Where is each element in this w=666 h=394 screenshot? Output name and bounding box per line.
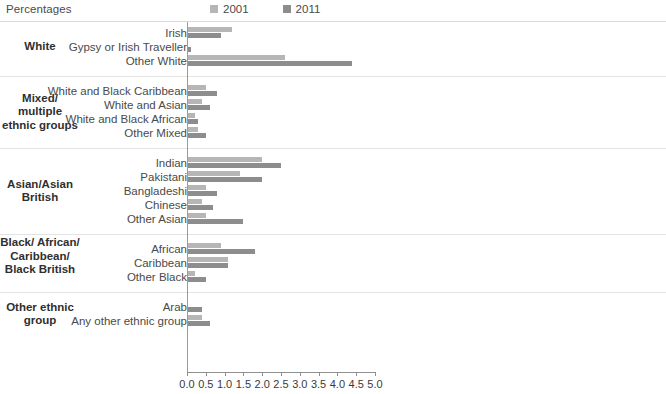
bar-2011 xyxy=(187,105,210,110)
legend-label-2011: 2011 xyxy=(296,3,321,15)
legend-swatch-2011 xyxy=(283,5,291,13)
category-label: Other Asian xyxy=(0,212,187,226)
group-label: Asian/Asian British xyxy=(0,178,80,205)
group-divider xyxy=(0,148,666,149)
chart-row: Bangladeshi xyxy=(0,184,666,198)
bar-2011 xyxy=(187,249,255,254)
bar-pair xyxy=(187,126,666,140)
bar-2001 xyxy=(187,127,198,132)
bar-2001 xyxy=(187,99,202,104)
x-axis-tick xyxy=(262,372,263,376)
x-axis-tick xyxy=(337,372,338,376)
bar-pair xyxy=(187,54,666,68)
chart-row: Indian xyxy=(0,156,666,170)
group-label: White xyxy=(0,40,80,54)
bar-pair xyxy=(187,156,666,170)
bar-pair xyxy=(187,198,666,212)
bar-pair xyxy=(187,26,666,40)
bar-2001 xyxy=(187,257,228,262)
bar-2001 xyxy=(187,271,195,276)
chart-row: Irish xyxy=(0,26,666,40)
x-axis-tick xyxy=(319,372,320,376)
bar-pair xyxy=(187,270,666,284)
bar-2011 xyxy=(187,263,228,268)
chart-row: Any other ethnic group xyxy=(0,314,666,328)
bar-pair xyxy=(187,256,666,270)
chart-row: Other Black xyxy=(0,270,666,284)
bar-pair xyxy=(187,112,666,126)
group-divider xyxy=(0,292,666,293)
bar-2011 xyxy=(187,321,210,326)
bar-2011 xyxy=(187,191,217,196)
chart-row: Gypsy or Irish Traveller xyxy=(0,40,666,54)
x-axis-tick xyxy=(225,372,226,376)
x-axis-tick xyxy=(300,372,301,376)
x-axis-tick xyxy=(281,372,282,376)
bar-2001 xyxy=(187,185,206,190)
value-axis-baseline xyxy=(187,22,188,372)
chart-row: African xyxy=(0,242,666,256)
legend-swatch-2001 xyxy=(210,5,218,13)
bar-pair xyxy=(187,98,666,112)
chart-plot-area: IrishGypsy or Irish TravellerOther White… xyxy=(0,22,666,372)
bar-2001 xyxy=(187,27,232,32)
bar-2011 xyxy=(187,119,198,124)
bar-2011 xyxy=(187,219,243,224)
chart-row: Other Mixed xyxy=(0,126,666,140)
bar-2001 xyxy=(187,113,195,118)
bar-2001 xyxy=(187,85,206,90)
category-label: Indian xyxy=(0,156,187,170)
bar-pair xyxy=(187,84,666,98)
x-axis: 0.00.51.01.52.02.53.03.54.04.55.0 xyxy=(0,372,666,394)
chart-row: White and Black Caribbean xyxy=(0,84,666,98)
bar-2011 xyxy=(187,307,202,312)
x-axis-tick xyxy=(356,372,357,376)
chart-row: White and Black African xyxy=(0,112,666,126)
bar-pair xyxy=(187,40,666,54)
x-axis-tick xyxy=(243,372,244,376)
bar-2011 xyxy=(187,163,281,168)
bar-pair xyxy=(187,242,666,256)
bar-2011 xyxy=(187,133,206,138)
bar-2001 xyxy=(187,315,202,320)
bar-pair xyxy=(187,314,666,328)
bar-2001 xyxy=(187,55,285,60)
x-axis-tick xyxy=(375,372,376,376)
group-divider xyxy=(0,234,666,235)
category-label: Irish xyxy=(0,26,187,40)
legend-label-2001: 2001 xyxy=(223,3,249,15)
bar-2001 xyxy=(187,213,206,218)
bar-2001 xyxy=(187,199,202,204)
chart-row: Other White xyxy=(0,54,666,68)
bar-2001 xyxy=(187,171,240,176)
category-label: Other White xyxy=(0,54,187,68)
bar-2011 xyxy=(187,61,352,66)
bar-pair xyxy=(187,212,666,226)
chart-header: Percentages 2001 2011 xyxy=(0,0,666,22)
chart-row: White and Asian xyxy=(0,98,666,112)
bar-2001 xyxy=(187,243,221,248)
chart-legend: 2001 2011 xyxy=(210,3,320,15)
bar-pair xyxy=(187,184,666,198)
x-axis-tick xyxy=(206,372,207,376)
group-label: Other ethnic group xyxy=(0,301,80,328)
legend-item-2001: 2001 xyxy=(210,3,249,15)
chart-row: Arab xyxy=(0,300,666,314)
group-label: Black/ African/ Caribbean/ Black British xyxy=(0,236,80,277)
group-divider xyxy=(0,76,666,77)
chart-row: Caribbean xyxy=(0,256,666,270)
chart-row: Chinese xyxy=(0,198,666,212)
legend-item-2011: 2011 xyxy=(283,3,321,15)
bar-2011 xyxy=(187,33,221,38)
bar-2001 xyxy=(187,157,262,162)
bar-pair xyxy=(187,170,666,184)
x-axis-tick xyxy=(187,372,188,376)
bar-2011 xyxy=(187,91,217,96)
bar-pair xyxy=(187,300,666,314)
bar-2011 xyxy=(187,277,206,282)
bar-2011 xyxy=(187,177,262,182)
bar-2011 xyxy=(187,205,213,210)
chart-row: Other Asian xyxy=(0,212,666,226)
group-label: Mixed/ multiple ethnic groups xyxy=(0,92,80,133)
percentages-label: Percentages xyxy=(6,3,72,15)
